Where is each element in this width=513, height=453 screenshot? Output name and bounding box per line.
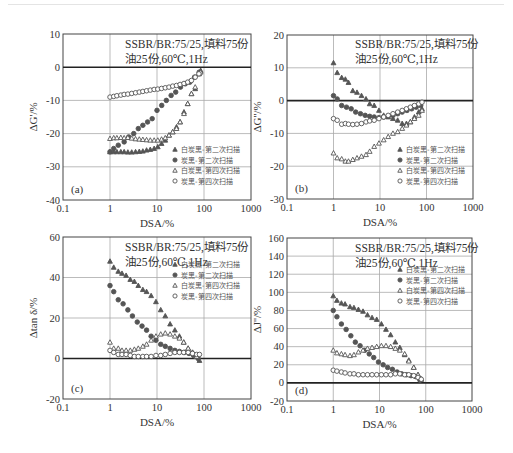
- circle-open-marker: [163, 352, 168, 357]
- circle-open-marker: [193, 75, 198, 80]
- circle-filled-marker: [116, 297, 121, 302]
- circle-filled-marker: [363, 113, 368, 118]
- circle-open-marker: [173, 350, 178, 355]
- panel-a: 100-10-20-30-400.11101001000DSA/%ΔG'/%(a…: [27, 29, 262, 230]
- condition-annotation-line2: 油25份,60℃,1Hz: [125, 52, 208, 66]
- circle-open-marker: [197, 352, 202, 357]
- x-tick-label: 1000: [241, 402, 262, 413]
- triangle-open-marker: [116, 346, 121, 350]
- triangle-filled-marker: [350, 88, 355, 92]
- triangle-open-marker: [154, 334, 159, 338]
- triangle-filled-marker: [359, 93, 364, 97]
- circle-filled-marker: [116, 143, 121, 148]
- y-tick-label: 20: [274, 359, 285, 370]
- triangle-filled-marker: [374, 317, 379, 321]
- triangle-filled-marker: [400, 121, 405, 125]
- triangle-filled-marker: [356, 307, 361, 311]
- circle-open-marker: [367, 119, 372, 124]
- circle-open-marker: [335, 118, 340, 123]
- circle-open-marker: [370, 372, 375, 377]
- circle-filled-marker: [136, 126, 141, 131]
- y-tick-label: 20: [50, 313, 61, 324]
- triangle-open-marker: [185, 101, 190, 105]
- triangle-open-marker: [384, 343, 389, 347]
- circle-open-marker: [384, 372, 389, 377]
- circle-filled-marker: [121, 302, 126, 307]
- triangle-filled-marker: [120, 271, 125, 275]
- circle-filled-marker: [135, 320, 140, 325]
- y-tick-label: 100: [268, 287, 284, 298]
- y-tick-label: 40: [50, 272, 61, 283]
- condition-annotation-line1: SSBR/BR:75/25,填料75份: [125, 37, 249, 51]
- legend-entry-label: 白炭黑-第四次扫描: [406, 166, 465, 175]
- y-tick-label: 0: [279, 377, 284, 388]
- triangle-open-marker: [346, 159, 351, 163]
- y-tick-label: 160: [268, 233, 284, 244]
- circle-filled-marker: [173, 158, 177, 162]
- circle-filled-marker: [173, 273, 177, 277]
- triangle-filled-marker: [339, 75, 344, 79]
- x-tick-label: 0.1: [56, 402, 69, 413]
- circle-open-marker: [189, 78, 194, 83]
- circle-open-marker: [144, 354, 149, 359]
- circle-filled-marker: [398, 158, 402, 162]
- x-tick-label: 1: [331, 404, 336, 415]
- triangle-open-marker: [168, 332, 173, 336]
- legend-entry-label: 白炭黑-第二次扫描: [181, 145, 240, 154]
- circle-open-marker: [335, 369, 340, 374]
- circle-filled-marker: [130, 314, 135, 319]
- triangle-filled-marker: [124, 273, 129, 277]
- circle-filled-marker: [367, 352, 372, 357]
- x-tick-label: 10: [152, 402, 163, 413]
- triangle-filled-marker: [361, 309, 366, 313]
- x-tick-label: 10: [374, 404, 385, 415]
- circle-filled-marker: [144, 328, 149, 333]
- x-tick-label: 100: [419, 202, 435, 213]
- x-tick-label: 1000: [463, 202, 484, 213]
- circle-filled-marker: [335, 97, 340, 102]
- triangle-open-marker: [402, 351, 407, 355]
- legend-entry-label: 白炭黑-第四次扫描: [181, 166, 240, 175]
- panel-d: 160140120100806040200-200.11101001000DSA…: [251, 233, 483, 431]
- circle-filled-marker: [385, 365, 390, 370]
- y-tick-label: 60: [274, 323, 285, 334]
- circle-filled-marker: [155, 108, 160, 113]
- triangle-open-marker: [352, 352, 357, 356]
- circle-open-marker: [356, 372, 361, 377]
- y-tick-label: 10: [274, 62, 285, 73]
- circle-open-marker: [398, 179, 402, 183]
- circle-open-marker: [395, 110, 400, 115]
- panel-c: 6040200-200.11101001000DSA/%Δtan δ/%(c)S…: [27, 232, 262, 429]
- triangle-open-marker: [386, 134, 391, 138]
- x-axis-label: DSA/%: [362, 418, 396, 430]
- triangle-filled-marker: [144, 289, 149, 293]
- triangle-filled-marker: [331, 60, 336, 64]
- legend-entry-label: 炭黑-第二次扫描: [406, 276, 458, 285]
- x-axis-label: DSA/%: [140, 416, 174, 428]
- triangle-open-marker: [356, 350, 361, 354]
- y-tick-label: 10: [50, 29, 61, 40]
- triangle-filled-marker: [168, 322, 173, 326]
- x-tick-label: 1000: [241, 203, 262, 214]
- y-tick-label: 80: [274, 305, 285, 316]
- triangle-open-marker: [359, 154, 364, 158]
- y-tick-label: -20: [46, 128, 60, 139]
- legend-entry-label: 白炭黑-第二次扫描: [406, 265, 465, 274]
- triangle-open-marker: [108, 340, 113, 344]
- x-tick-label: 100: [196, 203, 212, 214]
- circle-filled-marker: [111, 289, 116, 294]
- legend-entry-label: 炭黑-第二次扫描: [406, 156, 458, 165]
- circle-open-marker: [361, 372, 366, 377]
- triangle-open-marker: [136, 346, 141, 350]
- circle-filled-marker: [390, 367, 395, 372]
- y-tick-label: -30: [46, 161, 60, 172]
- x-tick-label: 1: [107, 402, 112, 413]
- circle-filled-marker: [335, 315, 340, 320]
- y-axis-label: ΔG''/%: [251, 101, 263, 132]
- x-tick-label: 1000: [462, 404, 483, 415]
- y-axis-label: ΔG'/%: [27, 102, 39, 131]
- y-tick-label: 120: [268, 269, 284, 280]
- legend-entry-label: 白炭黑-第二次扫描: [181, 260, 240, 269]
- triangle-open-marker: [406, 359, 411, 363]
- triangle-filled-marker: [367, 101, 372, 105]
